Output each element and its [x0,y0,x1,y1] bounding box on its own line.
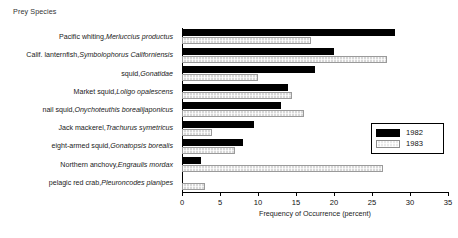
bar-1983 [182,37,311,44]
bar-1982 [182,102,281,109]
legend-swatch-1983 [376,140,400,148]
legend-swatch-1982 [376,129,400,137]
bar-1983 [182,129,212,136]
bar-1983 [182,110,304,117]
x-axis-tick [448,192,449,196]
bar-1983 [182,74,258,81]
category-common-name: Market squid, [74,88,117,96]
chart-legend: 1982 1983 [371,123,444,154]
bar-group [182,102,448,120]
category-label: nail squid, Onychoteuthis borealijaponic… [0,101,178,119]
bar-1983 [182,92,292,99]
x-axis-tick-label: 35 [444,198,452,207]
bar-1983 [182,56,387,63]
bar-group [182,157,448,175]
category-label: pelagic red crab, Pleuroncodes planipes [0,174,178,192]
bar-group [182,47,448,65]
bar-1982 [182,139,243,146]
category-common-name: squid, [121,70,140,78]
bar-1983 [182,183,205,190]
category-label: Market squid, Loligo opalescens [0,83,178,101]
bar-1982 [182,84,288,91]
category-common-name: nail squid, [42,106,74,114]
category-scientific-name: Symbolophorus Californiensis [79,51,173,59]
plot-area: 05101520253035 [182,28,448,192]
category-common-name: pelagic red crab, [49,179,101,187]
bar-1983 [182,165,383,172]
category-common-name: Pacific whiting, [59,33,106,41]
category-scientific-name: Merluccius productus [106,33,173,41]
category-label: Northern anchovy, Engraulis mordax [0,156,178,174]
category-scientific-name: Engraulis mordax [118,161,173,169]
bar-1983 [182,147,235,154]
bar-1982 [182,48,334,55]
bar-group [182,29,448,47]
bar-chart: Prey Species Pacific whiting, Merluccius… [0,0,458,238]
category-scientific-name: Gonatidae [140,70,173,78]
bar-group [182,84,448,102]
category-scientific-name: Trachurus symetricus [106,124,173,132]
legend-item-1982: 1982 [376,127,439,138]
bar-1982 [182,121,254,128]
legend-item-1983: 1983 [376,138,439,149]
category-common-name: Northern anchovy, [60,161,117,169]
prey-species-title: Prey Species [13,7,57,16]
category-label-column: Pacific whiting, Merluccius productusCal… [0,28,178,192]
bar-1982 [182,157,201,164]
category-label: Jack mackerel, Trachurus symetricus [0,119,178,137]
category-common-name: eight-armed squid, [52,142,111,150]
category-scientific-name: Gonatopsis borealis [110,142,173,150]
category-common-name: Jack mackerel, [58,124,105,132]
category-common-name: Calif. lanternfish, [26,51,79,59]
category-scientific-name: Onychoteuthis borealijaponicus [74,106,173,114]
category-scientific-name: Loligo opalescens [116,88,173,96]
category-label: eight-armed squid, Gonatopsis borealis [0,137,178,155]
x-axis-tick-label: 0 [180,198,184,207]
category-label: Calif. lanternfish, Symbolophorus Califo… [0,46,178,64]
category-label: Pacific whiting, Merluccius productus [0,28,178,46]
legend-label-1982: 1982 [406,128,423,137]
bar-group [182,65,448,83]
x-axis-tick-label: 20 [330,198,338,207]
x-axis-label: Frequency of Occurrence (percent) [182,209,448,218]
x-axis-tick-label: 30 [406,198,414,207]
bar-1982 [182,29,395,36]
x-axis-tick-label: 15 [292,198,300,207]
x-axis-tick-label: 25 [368,198,376,207]
x-axis-tick-label: 10 [254,198,262,207]
category-label: squid, Gonatidae [0,64,178,82]
bar-1982 [182,66,315,73]
x-axis-tick-label: 5 [218,198,222,207]
legend-label-1983: 1983 [406,139,423,148]
bar-group [182,175,448,193]
category-scientific-name: Pleuroncodes planipes [101,179,173,187]
